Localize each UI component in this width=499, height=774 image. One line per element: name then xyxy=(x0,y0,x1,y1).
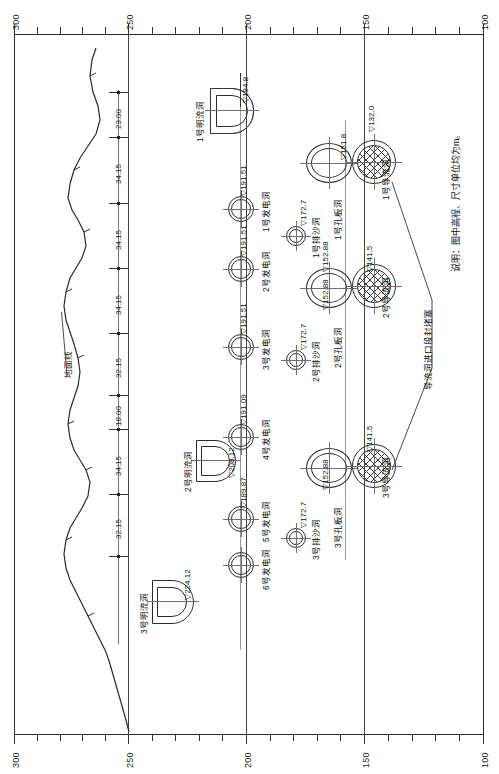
axis-minor-tick xyxy=(222,734,223,741)
axis-minor-tick xyxy=(60,27,61,34)
power-tunnel-2-label: 2号发电洞 xyxy=(262,251,271,292)
axis-minor-tick xyxy=(37,27,38,34)
dimension-value: 34.15 xyxy=(115,455,123,475)
axis-minor-tick xyxy=(412,27,413,34)
axis-minor-tick xyxy=(364,734,365,744)
axis-minor-tick xyxy=(128,734,129,744)
axis-minor-tick xyxy=(412,734,413,741)
power-tunnel-3-label: 3号发电洞 xyxy=(262,329,271,370)
axis-minor-tick xyxy=(317,734,318,741)
axis-minor-tick xyxy=(388,27,389,34)
open-flow-tunnel-3-elevation: ▽224.12 xyxy=(184,569,192,600)
dimension-value: 34.15 xyxy=(115,294,123,314)
dimension-point xyxy=(117,202,120,205)
axis-tick-top-200: 200 xyxy=(244,14,253,30)
axis-minor-tick xyxy=(435,27,436,34)
dimension-point xyxy=(117,91,120,94)
axis-minor-tick xyxy=(293,734,294,741)
axis-minor-tick xyxy=(199,27,200,34)
dimension-point xyxy=(117,493,120,496)
power-tunnel-4-elevation: ▽191.09 xyxy=(240,394,248,425)
sand-flush-tunnel-2-label: 2号排沙洞 xyxy=(312,341,321,382)
power-tunnel-2-elevation: ▽191.51 xyxy=(240,225,248,256)
axis-tick-top-150: 150 xyxy=(362,14,371,30)
axis-tick-top-250: 250 xyxy=(126,14,135,30)
axis-minor-tick xyxy=(222,27,223,34)
axis-minor-tick xyxy=(105,27,106,34)
drawing-sheet: 300 250 200 150 100 300 250 200 150 100 … xyxy=(0,0,499,774)
power-tunnel-3-elevation: ▽191.51 xyxy=(240,303,248,334)
axis-minor-tick xyxy=(14,734,15,744)
axis-minor-tick xyxy=(199,734,200,741)
axis-minor-tick xyxy=(483,734,484,744)
axis-minor-tick xyxy=(270,734,271,741)
axis-minor-tick xyxy=(152,734,153,741)
frame-right-edge xyxy=(483,34,484,735)
axis-minor-tick xyxy=(317,27,318,34)
axis-minor-tick xyxy=(459,27,460,34)
frame-left-edge xyxy=(14,34,15,735)
orifice-plate-tunnel-2-label: 2号孔板洞 xyxy=(334,327,343,368)
axis-minor-tick xyxy=(37,734,38,741)
axis-minor-tick xyxy=(388,734,389,741)
axis-tick-bottom-200: 200 xyxy=(244,752,253,768)
open-flow-tunnel-1-elevation: ▽194.8 xyxy=(242,77,250,103)
diversion-tunnel-2-label: 2号导流洞 xyxy=(382,277,391,318)
orifice-plate-tunnel-3-elevation-top: ▽152.88 xyxy=(322,459,330,490)
diversion-tunnel-2-elevation: ▽141.5 xyxy=(366,246,374,272)
orifice-plate-tunnel-3-label: 3号孔板洞 xyxy=(334,507,343,548)
orifice-plate-tunnel-1-label: 1号孔板洞 xyxy=(334,199,343,240)
axis-minor-tick xyxy=(60,734,61,741)
dimension-point xyxy=(117,428,120,431)
diversion-tunnel-1-elevation: ▽132.0 xyxy=(368,106,376,132)
axis-tick-bottom-250: 250 xyxy=(126,752,135,768)
dimension-point xyxy=(117,136,120,139)
dimension-value: 18.00 xyxy=(115,406,123,426)
axis-minor-tick xyxy=(175,734,176,741)
sand-flush-tunnel-3-elevation: ▽172.7 xyxy=(300,502,308,528)
axis-minor-tick xyxy=(435,734,436,741)
dimension-point xyxy=(117,555,120,558)
power-tunnel-4-label: 4号发电洞 xyxy=(262,419,271,460)
axis-tick-bottom-100: 100 xyxy=(481,752,490,768)
dimension-value: 23.00 xyxy=(115,108,123,128)
power-tunnel-1-elevation: ▽191.51 xyxy=(240,165,248,196)
axis-minor-tick xyxy=(105,734,106,741)
orifice-plate-tunnel-1-elevation-low: ▽151.8 xyxy=(340,134,348,160)
axis-minor-tick xyxy=(82,734,83,741)
axis-minor-tick xyxy=(246,734,247,744)
sand-flush-tunnel-1-elevation: ▽172.7 xyxy=(300,200,308,226)
power-tunnel-5-elevation: ▽189.87 xyxy=(240,477,248,508)
dimension-value: 32.15 xyxy=(115,358,123,378)
diversion-tunnel-3-label: 3号导流洞 xyxy=(382,457,391,498)
power-tunnel-1-label: 1号发电洞 xyxy=(262,191,271,232)
dimension-value: 32.15 xyxy=(115,519,123,539)
axis-minor-tick xyxy=(340,27,341,34)
dimension-point xyxy=(117,267,120,270)
open-flow-tunnel-1-label: 1号明流洞 xyxy=(196,101,205,142)
axis-minor-tick xyxy=(82,27,83,34)
orifice-plate-tunnel-2-elevation-top: ▽152.88 xyxy=(322,279,330,310)
axis-minor-tick xyxy=(175,27,176,34)
gridline-250 xyxy=(128,34,129,735)
diversion-tunnel-1-label: 1号导流洞 xyxy=(382,159,391,200)
axis-minor-tick xyxy=(340,734,341,741)
open-flow-tunnel-3-label: 3号明流洞 xyxy=(140,593,149,634)
axis-tick-top-100: 100 xyxy=(481,14,490,30)
dimension-value: 34.15 xyxy=(115,164,123,184)
dimension-value: 34.15 xyxy=(115,229,123,249)
axis-minor-tick xyxy=(293,27,294,34)
lower-row-axis xyxy=(345,120,346,560)
sand-flush-tunnel-2-elevation: ▽172.7 xyxy=(300,324,308,350)
plug-callout-label: 导流洞进口段封堵塞 xyxy=(424,309,433,390)
open-flow-tunnel-2-label: 2号明流洞 xyxy=(184,451,193,492)
axis-minor-tick xyxy=(152,27,153,34)
open-flow-tunnel-2-elevation: ▽208.12 xyxy=(228,447,236,478)
sand-flush-tunnel-3-label: 3号排沙洞 xyxy=(312,519,321,560)
power-tunnel-6-label: 6号发电洞 xyxy=(262,549,271,590)
axis-tick-bottom-300: 300 xyxy=(12,752,21,768)
power-tunnel-5-label: 5号发电洞 xyxy=(262,501,271,542)
axis-minor-tick xyxy=(459,734,460,741)
sand-flush-tunnel-1-label: 1号排沙洞 xyxy=(312,217,321,258)
elev-underline-1 xyxy=(240,73,241,107)
